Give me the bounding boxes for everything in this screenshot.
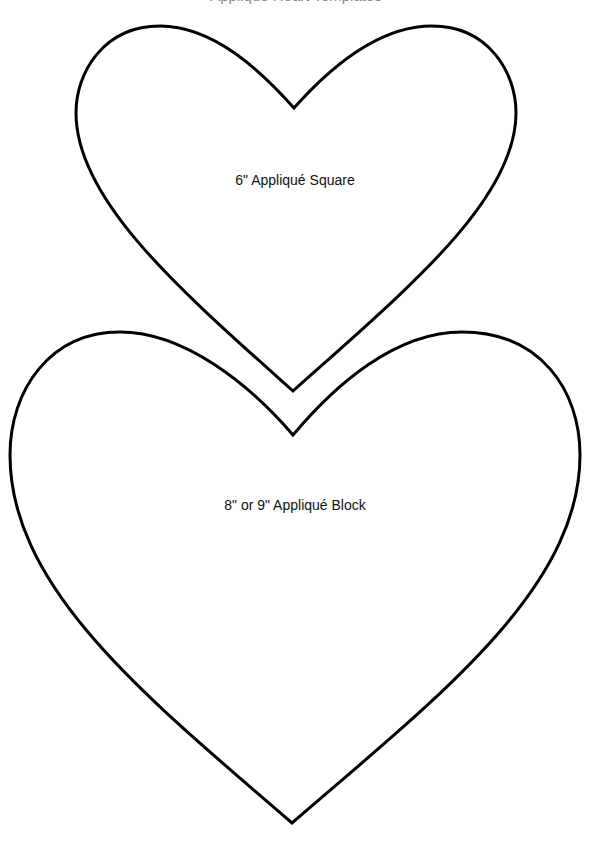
- small-heart-label: 6" Appliqué Square: [235, 172, 354, 188]
- large-heart-label: 8" or 9" Appliqué Block: [224, 497, 365, 513]
- heart-templates: [0, 0, 592, 846]
- large-heart-outline: [10, 332, 580, 823]
- small-heart-outline: [76, 26, 516, 391]
